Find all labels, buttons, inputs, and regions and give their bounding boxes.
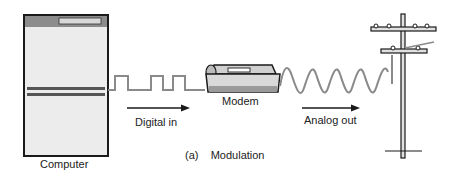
modem-icon	[206, 65, 280, 92]
analog-signal-wave	[280, 68, 388, 93]
digital-in-label: Digital in	[135, 116, 177, 128]
telephone-pole-icon	[371, 14, 436, 158]
digital-arrow-icon	[127, 105, 190, 112]
computer-icon	[24, 15, 108, 156]
modem-label: Modem	[222, 95, 259, 107]
digital-signal-wave	[108, 76, 205, 90]
analog-arrow-icon	[302, 105, 360, 112]
computer-label: Computer	[40, 158, 88, 170]
analog-out-label: Analog out	[304, 114, 357, 126]
caption: (a) Modulation	[185, 149, 264, 161]
